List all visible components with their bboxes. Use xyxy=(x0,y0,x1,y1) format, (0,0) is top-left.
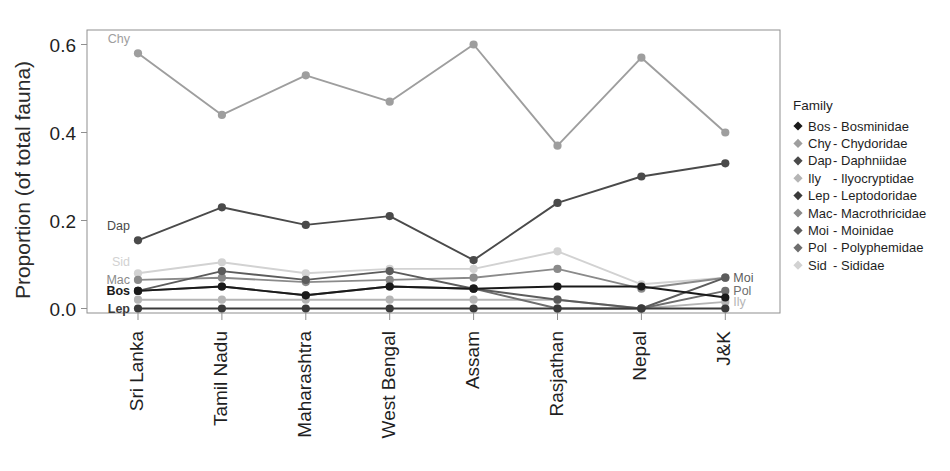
legend-code: Pol xyxy=(808,240,827,255)
inline-label-mac: Mac xyxy=(106,273,130,287)
data-point-sid-1[interactable] xyxy=(218,258,226,266)
data-point-moi-2[interactable] xyxy=(302,276,310,284)
legend-item-lep[interactable]: Lep-Leptodoridae xyxy=(793,188,917,203)
data-point-moi-1[interactable] xyxy=(218,267,226,275)
legend-title: Family xyxy=(793,98,833,113)
data-point-bos-0[interactable] xyxy=(134,287,142,295)
data-point-bos-5[interactable] xyxy=(553,282,561,290)
data-point-bos-3[interactable] xyxy=(386,282,394,290)
y-tick-label: 0.2 xyxy=(50,211,76,232)
data-point-lep-7[interactable] xyxy=(721,304,729,312)
legend-code: Sid xyxy=(808,258,827,273)
y-tick-label: 0.0 xyxy=(50,299,76,320)
legend-separator: - xyxy=(833,188,837,203)
data-point-ily-0[interactable] xyxy=(134,296,142,304)
legend-separator: - xyxy=(833,206,837,221)
data-point-ily-4[interactable] xyxy=(470,296,478,304)
legend-code: Ily xyxy=(808,171,822,186)
legend-item-mac[interactable]: Mac-Macrothricidae xyxy=(793,206,926,221)
data-point-dap-4[interactable] xyxy=(470,256,478,264)
data-point-moi-3[interactable] xyxy=(386,267,394,275)
inline-label-sid: Sid xyxy=(112,255,130,269)
inline-label-dap: Dap xyxy=(107,219,130,233)
data-point-chy-6[interactable] xyxy=(637,54,645,62)
legend-code: Bos xyxy=(808,119,831,134)
x-tick-label-nepal: Nepal xyxy=(629,331,650,381)
data-point-lep-0[interactable] xyxy=(134,304,142,312)
legend-code: Moi xyxy=(808,223,829,238)
x-tick-label-sri-lanka: Sri Lanka xyxy=(126,331,147,412)
data-point-lep-5[interactable] xyxy=(553,304,561,312)
legend-family-name: Moinidae xyxy=(841,223,894,238)
data-point-dap-0[interactable] xyxy=(134,236,142,244)
legend-item-ily[interactable]: Ily-Ilyocryptidae xyxy=(793,171,914,186)
legend-separator: - xyxy=(833,258,837,273)
data-point-chy-0[interactable] xyxy=(134,49,142,57)
data-point-dap-1[interactable] xyxy=(218,203,226,211)
data-point-bos-7[interactable] xyxy=(721,293,729,301)
data-point-mac-4[interactable] xyxy=(470,274,478,282)
data-point-sid-5[interactable] xyxy=(553,247,561,255)
data-point-ily-1[interactable] xyxy=(218,296,226,304)
legend-family-name: Polyphemidae xyxy=(841,240,923,255)
data-point-lep-4[interactable] xyxy=(470,304,478,312)
inline-label-pol: Pol xyxy=(733,284,751,298)
y-axis-title: Proportion (of total fauna) xyxy=(11,61,34,299)
inline-label-chy: Chy xyxy=(108,32,131,46)
data-point-dap-5[interactable] xyxy=(553,199,561,207)
legend[interactable]: FamilyBos-BosminidaeChy-ChydoridaeDap-Da… xyxy=(793,98,926,273)
data-point-dap-6[interactable] xyxy=(637,172,645,180)
legend-item-pol[interactable]: Pol-Polyphemidae xyxy=(793,240,923,255)
data-point-dap-7[interactable] xyxy=(721,159,729,167)
data-point-chy-5[interactable] xyxy=(553,142,561,150)
data-point-chy-4[interactable] xyxy=(470,40,478,48)
legend-code: Lep xyxy=(808,188,830,203)
x-tick-label-assam: Assam xyxy=(462,331,483,389)
legend-separator: - xyxy=(833,153,837,168)
legend-code: Dap xyxy=(808,153,832,168)
data-point-bos-2[interactable] xyxy=(302,291,310,299)
legend-separator: - xyxy=(833,223,837,238)
legend-family-name: Macrothricidae xyxy=(841,206,926,221)
data-point-bos-1[interactable] xyxy=(218,282,226,290)
x-tick-label-j-k: J&K xyxy=(713,331,734,366)
legend-item-dap[interactable]: Dap-Daphniidae xyxy=(793,153,906,168)
data-point-lep-6[interactable] xyxy=(637,304,645,312)
legend-separator: - xyxy=(833,240,837,255)
data-point-lep-2[interactable] xyxy=(302,304,310,312)
x-tick-label-tamil-nadu: Tamil Nadu xyxy=(210,331,231,426)
data-point-chy-3[interactable] xyxy=(386,98,394,106)
data-point-chy-7[interactable] xyxy=(721,128,729,136)
data-point-bos-4[interactable] xyxy=(470,285,478,293)
data-point-moi-5[interactable] xyxy=(553,296,561,304)
y-tick-label: 0.6 xyxy=(50,35,76,56)
data-point-sid-4[interactable] xyxy=(470,265,478,273)
data-point-lep-1[interactable] xyxy=(218,304,226,312)
legend-family-name: Leptodoridae xyxy=(841,188,917,203)
x-tick-label-rasjathan: Rasjathan xyxy=(546,331,567,417)
chart-figure: Proportion (of total fauna) 0.00.20.40.6… xyxy=(0,0,950,471)
legend-item-moi[interactable]: Moi-Moinidae xyxy=(793,223,893,238)
data-point-mac-0[interactable] xyxy=(134,276,142,284)
data-point-ily-3[interactable] xyxy=(386,296,394,304)
line-chart-svg: Proportion (of total fauna) 0.00.20.40.6… xyxy=(0,0,950,471)
legend-item-chy[interactable]: Chy-Chydoridae xyxy=(793,136,907,151)
inline-label-lep: Lep xyxy=(108,302,131,316)
legend-separator: - xyxy=(833,171,837,186)
data-point-dap-2[interactable] xyxy=(302,221,310,229)
legend-family-name: Sididae xyxy=(841,258,884,273)
data-point-bos-6[interactable] xyxy=(637,282,645,290)
data-point-dap-3[interactable] xyxy=(386,212,394,220)
data-point-moi-7[interactable] xyxy=(721,274,729,282)
data-point-chy-1[interactable] xyxy=(218,111,226,119)
data-point-chy-2[interactable] xyxy=(302,71,310,79)
data-point-lep-3[interactable] xyxy=(386,304,394,312)
legend-code: Chy xyxy=(808,136,832,151)
legend-item-bos[interactable]: Bos-Bosminidae xyxy=(793,119,909,134)
x-tick-label-west-bengal: West Bengal xyxy=(378,331,399,438)
y-tick-label: 0.4 xyxy=(50,123,77,144)
data-point-mac-5[interactable] xyxy=(553,265,561,273)
inline-label-moi: Moi xyxy=(733,271,753,285)
legend-family-name: Ilyocryptidae xyxy=(841,171,914,186)
legend-separator: - xyxy=(833,119,837,134)
